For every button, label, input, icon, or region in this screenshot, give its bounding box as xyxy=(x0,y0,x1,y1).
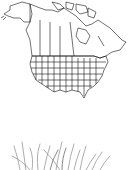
canada-outline xyxy=(26,4,126,58)
grass-illustration xyxy=(0,140,131,170)
alaska-outline xyxy=(4,2,32,22)
hudson-bay xyxy=(76,28,90,44)
north-america-map xyxy=(0,0,131,100)
